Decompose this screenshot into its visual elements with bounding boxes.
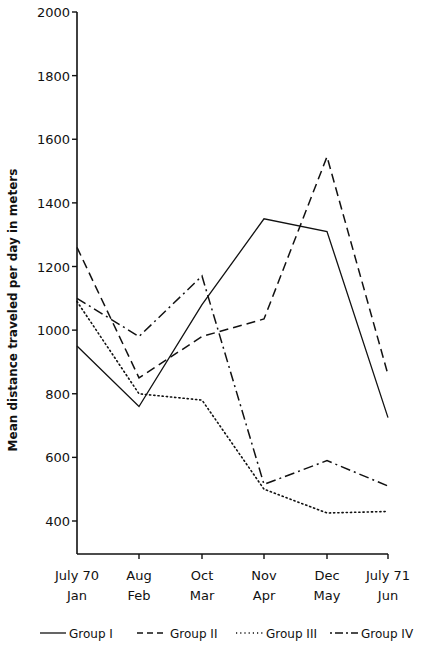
- legend-item: Group I: [40, 627, 113, 641]
- y-tick-label: 800: [45, 387, 70, 402]
- legend-item: Group IV: [330, 627, 414, 641]
- x-tick-label: July 71: [365, 568, 410, 583]
- x-tick-label-secondary: Jan: [66, 588, 87, 603]
- x-tick-label: Aug: [126, 568, 151, 583]
- legend-label: Group III: [266, 627, 317, 641]
- x-ticks: July 70JanAugFebOctMarNovAprDecMayJuly 7…: [54, 554, 410, 603]
- legend-label: Group IV: [361, 627, 414, 641]
- y-tick-label: 1000: [37, 323, 70, 338]
- y-tick-label: 600: [45, 450, 70, 465]
- legend-item: Group II: [137, 627, 217, 641]
- y-tick-label: 1600: [37, 132, 70, 147]
- series-line-group-ii: [77, 157, 388, 378]
- x-tick-label-secondary: Jun: [377, 588, 398, 603]
- y-tick-label: 1400: [37, 196, 70, 211]
- legend-label: Group II: [170, 627, 217, 641]
- y-ticks: 400600800100012001400160018002000: [37, 5, 77, 529]
- x-tick-label-secondary: May: [314, 588, 341, 603]
- y-tick-label: 1200: [37, 260, 70, 275]
- series-line-group-i: [77, 219, 388, 418]
- axes: [77, 12, 388, 554]
- legend-label: Group I: [69, 627, 113, 641]
- x-tick-label: Oct: [191, 568, 213, 583]
- line-chart: 400600800100012001400160018002000 July 7…: [0, 0, 426, 646]
- y-axis-title: Mean distance traveled per day in meters: [6, 169, 20, 452]
- y-tick-label: 2000: [37, 5, 70, 20]
- y-tick-label: 1800: [37, 69, 70, 84]
- series-line-group-iii: [77, 302, 388, 514]
- x-tick-label-secondary: Apr: [253, 588, 276, 603]
- x-tick-label: July 70: [54, 568, 99, 583]
- x-tick-label: Nov: [251, 568, 277, 583]
- x-tick-label-secondary: Feb: [127, 588, 150, 603]
- y-tick-label: 400: [45, 514, 70, 529]
- series-lines: [77, 157, 388, 513]
- x-tick-label: Dec: [314, 568, 339, 583]
- legend-item: Group III: [236, 627, 317, 641]
- x-tick-label-secondary: Mar: [190, 588, 215, 603]
- series-line-group-iv: [77, 276, 388, 486]
- legend: Group IGroup IIGroup IIIGroup IV: [40, 627, 414, 641]
